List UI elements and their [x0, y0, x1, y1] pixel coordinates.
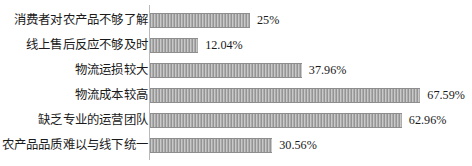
- bar-row: 物流运损较大 37.96%: [0, 58, 472, 83]
- category-label: 消费者对农产品不够了解: [14, 8, 148, 33]
- bar[interactable]: [150, 113, 402, 128]
- bar-value-label: 37.96%: [309, 63, 347, 78]
- bar-row: 缺乏专业的运营团队 62.96%: [0, 108, 472, 133]
- bar-value-label: 25%: [257, 13, 279, 28]
- bar-value-label: 30.56%: [279, 138, 317, 153]
- bar-value-label: 67.59%: [427, 88, 465, 103]
- bar-wrapper: 37.96%: [150, 63, 346, 78]
- bar-wrapper: 62.96%: [150, 113, 446, 128]
- bar-row: 农产品品质难以与线下统一 30.56%: [0, 133, 472, 158]
- bar-wrapper: 25%: [150, 13, 279, 28]
- category-label: 物流运损较大: [75, 58, 148, 83]
- category-label: 缺乏专业的运营团队: [38, 108, 148, 133]
- bar-row: 消费者对农产品不够了解 25%: [0, 8, 472, 33]
- category-label: 线上售后反应不够及时: [26, 33, 148, 58]
- category-label: 农产品品质难以与线下统一: [2, 133, 148, 158]
- bar-row: 线上售后反应不够及时 12.04%: [0, 33, 472, 58]
- bar-row: 物流成本较高 67.59%: [0, 83, 472, 108]
- bar-wrapper: 67.59%: [150, 88, 465, 103]
- bar[interactable]: [150, 138, 272, 153]
- bar[interactable]: [150, 13, 250, 28]
- plot-area: 消费者对农产品不够了解 25% 线上售后反应不够及时 12.04% 物流运损较大…: [0, 0, 472, 166]
- category-label: 物流成本较高: [75, 83, 148, 108]
- bar[interactable]: [150, 88, 420, 103]
- horizontal-bar-chart: 消费者对农产品不够了解 25% 线上售后反应不够及时 12.04% 物流运损较大…: [0, 0, 472, 166]
- bar[interactable]: [150, 63, 302, 78]
- bar[interactable]: [150, 38, 198, 53]
- bar-wrapper: 12.04%: [150, 38, 243, 53]
- bar-value-label: 62.96%: [409, 113, 447, 128]
- bar-value-label: 12.04%: [205, 38, 243, 53]
- bar-wrapper: 30.56%: [150, 138, 317, 153]
